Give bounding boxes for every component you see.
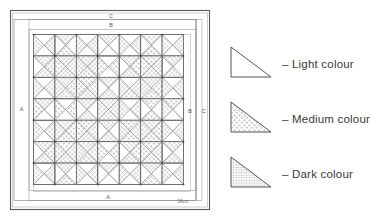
patch-corner-dot [33,34,35,36]
patch-triangle [55,163,76,174]
patch-corner-dot [118,77,120,79]
patch-triangle [141,174,162,185]
patch-triangle [162,163,173,184]
patch-triangle [44,163,55,184]
legend-item-dark: – Dark colour [228,150,380,198]
patch-triangle [44,120,55,141]
patch-triangle [34,163,45,184]
border-label-left-side: A [20,106,24,112]
patch-corner-dot [76,34,78,36]
patch-corner-dot [33,77,35,79]
patch-corner-dot [76,119,78,121]
legend: – Light colour – Medium colour – Dark co… [228,36,380,204]
dark-triangle-swatch [228,154,274,194]
quilt-pattern-page: C B A B C A 34cm – Light colour – Medium… [0,0,380,220]
border-label-right-outer: C [202,108,206,114]
legend-label-dark: – Dark colour [282,168,353,180]
patch-triangle [173,77,184,98]
patch-triangle [119,35,130,56]
patch-triangle [162,142,183,153]
patch-corner-dot [183,184,185,186]
patch-triangle [98,77,119,88]
legend-text-dark: Dark colour [292,168,353,180]
patch-triangle [162,67,183,78]
light-triangle-swatch [228,44,274,84]
medium-triangle-swatch [228,99,274,139]
patch-triangle [98,35,119,46]
legend-dash-medium: – [282,113,289,125]
patch-triangle [119,163,130,184]
patch-corner-dot [183,55,185,57]
legend-text-medium: Medium colour [292,113,370,125]
patch-triangle [173,35,184,56]
legend-text-light: Light colour [292,58,354,70]
patch-triangle [34,77,45,98]
patch-triangle [109,56,120,77]
patch-corner-dot [161,119,163,121]
patch-triangle [162,56,183,67]
patch-corner-dot [33,162,35,164]
patch-corner-dot [183,98,185,100]
border-label-right-inner: B [188,108,192,114]
patch-triangle [55,99,66,120]
patch-triangle [55,35,76,46]
patch-triangle [130,35,141,56]
patch-corner-dot [54,141,56,143]
patch-triangle [44,77,55,98]
patch-triangle [98,88,119,99]
patch-triangle [173,120,184,141]
legend-label-light: – Light colour [282,58,354,70]
patch-triangle [119,99,130,120]
patch-triangle [98,131,119,142]
legend-item-light: – Light colour [228,40,380,88]
patch-triangle [34,35,45,56]
legend-label-medium: – Medium colour [282,113,370,125]
patch-triangle [130,99,141,120]
patch-triangle [162,152,183,163]
patchwork-grid [33,34,185,186]
patch-corner-dot [33,119,35,121]
patch-corner-dot [140,55,142,57]
patch-triangle [162,77,173,98]
patch-triangle [162,35,173,56]
border-label-outer-top: C [109,13,113,19]
patch-triangle [141,35,162,46]
patch-corner-dot [161,77,163,79]
patch-triangle [98,163,119,174]
patch-corner-dot [76,162,78,164]
patch-corner-dot [54,184,56,186]
patch-triangle [98,174,119,185]
patch-triangle [98,45,119,56]
patch-triangle [141,163,162,174]
patch-triangle [98,56,109,77]
border-label-bottom: A [106,194,110,200]
patch-triangle [76,110,97,121]
patch-corner-dot [161,162,163,164]
patch-triangle [141,45,162,56]
patch-triangle [141,110,162,121]
patch-triangle [76,163,87,184]
patch-triangle [109,142,120,163]
patch-corner-dot [97,141,99,143]
patch-corner-dot [118,34,120,36]
patch-triangle [76,99,97,110]
patch-triangle [141,99,162,110]
patch-triangle [87,35,98,56]
patch-corner-dot [161,34,163,36]
patch-corner-dot [97,55,99,57]
patch-corner-dot [118,119,120,121]
patch-triangle [162,120,173,141]
patch-triangle [87,163,98,184]
patch-corner-dot [118,162,120,164]
patch-triangle [55,174,76,185]
patch-triangle [55,45,76,56]
dimension-annotation: 34cm [177,199,188,204]
patch-corner-dot [183,141,185,143]
patch-triangle [173,163,184,184]
patch-triangle [66,99,77,120]
legend-item-medium: – Medium colour [228,95,380,143]
patch-corner-dot [97,98,99,100]
border-label-inner-top: B [109,22,113,28]
patch-triangle [130,163,141,184]
patch-corner-dot [97,184,99,186]
